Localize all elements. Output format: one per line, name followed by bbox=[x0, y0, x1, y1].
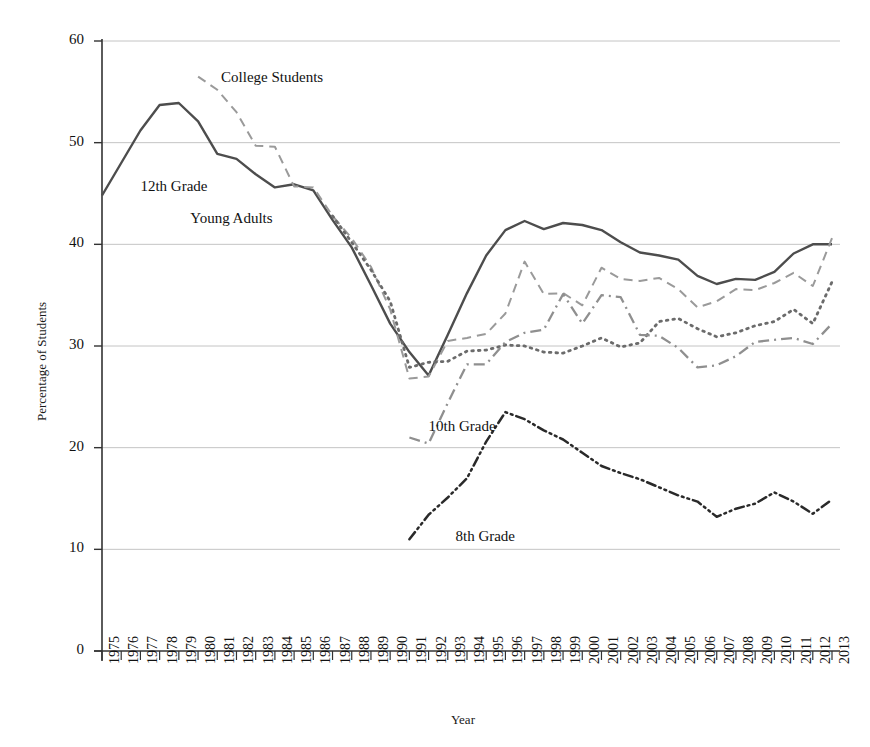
y-axis-title: Percentage of Students bbox=[34, 302, 50, 421]
x-tick-label: 1993 bbox=[453, 636, 469, 664]
x-tick-label: 1983 bbox=[261, 636, 277, 664]
series-label-college-students: College Students bbox=[221, 69, 323, 86]
x-tick-label: 1980 bbox=[203, 636, 219, 664]
x-tick-label: 2000 bbox=[587, 636, 603, 664]
series-label-12th-grade: 12th Grade bbox=[140, 178, 207, 195]
x-tick-label: 2007 bbox=[722, 636, 738, 664]
y-tick-label: 60 bbox=[44, 31, 84, 48]
x-tick-label: 2003 bbox=[645, 636, 661, 664]
x-tick-label: 2005 bbox=[683, 636, 699, 664]
x-tick-label: 2008 bbox=[741, 636, 757, 664]
x-tick-label: 2006 bbox=[703, 636, 719, 664]
x-tick-label: 2004 bbox=[664, 636, 680, 664]
x-tick-label: 1999 bbox=[568, 636, 584, 664]
x-tick-label: 1985 bbox=[299, 636, 315, 664]
x-tick-label: 1990 bbox=[395, 636, 411, 664]
x-tick-label: 2009 bbox=[760, 636, 776, 664]
x-tick-label: 1975 bbox=[107, 636, 123, 664]
series-line-young-adults bbox=[333, 216, 833, 368]
x-tick-label: 1978 bbox=[165, 636, 181, 664]
x-tick-label: 1982 bbox=[241, 636, 257, 664]
x-tick-label: 1981 bbox=[222, 636, 238, 664]
series-label-young-adults: Young Adults bbox=[190, 210, 272, 227]
x-tick-label: 1987 bbox=[338, 636, 354, 664]
y-tick-label: 50 bbox=[44, 133, 84, 150]
x-tick-label: 1996 bbox=[510, 636, 526, 664]
x-tick-label: 1989 bbox=[376, 636, 392, 664]
x-tick-label: 1986 bbox=[318, 636, 334, 664]
series-label-10th-grade: 10th Grade bbox=[429, 418, 496, 435]
x-tick-label: 2001 bbox=[606, 636, 622, 664]
x-tick-label: 1988 bbox=[357, 636, 373, 664]
x-tick-label: 2002 bbox=[626, 636, 642, 664]
x-tick-label: 2011 bbox=[799, 637, 815, 664]
x-tick-label: 1994 bbox=[472, 636, 488, 664]
x-tick-label: 1984 bbox=[280, 636, 296, 664]
x-tick-label: 1995 bbox=[491, 636, 507, 664]
x-tick-label: 1991 bbox=[414, 636, 430, 664]
x-tick-label: 1979 bbox=[184, 636, 200, 664]
x-tick-label: 2013 bbox=[837, 636, 853, 664]
x-tick-label: 1997 bbox=[530, 636, 546, 664]
y-tick-label: 0 bbox=[44, 641, 84, 658]
y-tick-label: 10 bbox=[44, 539, 84, 556]
x-tick-label: 1977 bbox=[145, 636, 161, 664]
x-tick-label: 2012 bbox=[818, 636, 834, 664]
series-label-8th-grade: 8th Grade bbox=[455, 528, 515, 545]
x-tick-label: 1992 bbox=[434, 636, 450, 664]
x-axis-title: Year bbox=[451, 712, 475, 728]
x-tick-label: 1976 bbox=[126, 636, 142, 664]
y-tick-label: 30 bbox=[44, 336, 84, 353]
gridlines bbox=[102, 41, 840, 549]
y-tick-label: 40 bbox=[44, 234, 84, 251]
y-tick-label: 20 bbox=[44, 438, 84, 455]
data-series-group bbox=[102, 77, 832, 540]
x-tick-label: 1998 bbox=[549, 636, 565, 664]
chart-canvas bbox=[0, 0, 870, 747]
x-tick-label: 2010 bbox=[779, 636, 795, 664]
chart-figure: 0102030405060 19751976197719781979198019… bbox=[0, 0, 870, 747]
